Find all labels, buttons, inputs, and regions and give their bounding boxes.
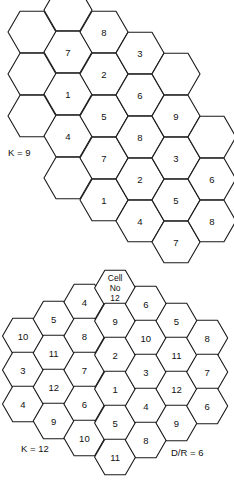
cell-number: 3 (173, 153, 178, 164)
cell-number: 8 (209, 216, 214, 227)
cell-number: 6 (82, 399, 87, 410)
cell-number: 9 (173, 111, 178, 122)
cell-number: 5 (174, 316, 179, 327)
cell-number: 8 (101, 27, 106, 38)
cell-number: 7 (173, 237, 178, 248)
cell-number: No (110, 283, 121, 293)
cell-number: 10 (18, 331, 29, 342)
cell-number: 1 (101, 195, 106, 206)
cell-number: 6 (137, 90, 142, 101)
k9-cluster-pattern: 7148257136824935768 (8, 0, 234, 263)
cell-number: 5 (101, 111, 106, 122)
cell-number: 9 (51, 416, 56, 427)
cell-number: 4 (20, 399, 25, 410)
cell-number: 7 (101, 153, 106, 164)
cell-number: 6 (209, 174, 214, 185)
cell-number: 8 (82, 331, 87, 342)
cell-number: 4 (82, 297, 87, 308)
cell-number: 9 (112, 316, 117, 327)
reuse-ratio-label: D/R = 6 (171, 447, 203, 458)
cell-number: 8 (137, 132, 142, 143)
cell-number: 4 (143, 401, 148, 412)
cell-number: 4 (137, 216, 142, 227)
cell-number: 3 (137, 48, 142, 59)
cell-number: 12 (110, 293, 120, 303)
cell-number: 8 (205, 333, 210, 344)
cell-number: 11 (49, 348, 59, 359)
cell-number: 2 (101, 69, 106, 80)
cell-number: 7 (205, 367, 210, 378)
cell-number: 1 (65, 89, 70, 100)
k12-label: K = 12 (21, 443, 49, 454)
cell-number: 12 (171, 384, 182, 395)
cell-number: 7 (82, 365, 87, 376)
cell-number: 11 (110, 452, 120, 463)
cell-number: 5 (173, 195, 178, 206)
cell-number: 6 (143, 299, 148, 310)
cell-number: Cell (108, 273, 123, 283)
cell-number: 4 (65, 131, 70, 142)
cell-number: 2 (137, 174, 142, 185)
cell-number: 2 (112, 350, 117, 361)
cell-number: 12 (48, 382, 59, 393)
cell-number: 10 (141, 333, 152, 344)
cell-number: 6 (205, 401, 210, 412)
cell-number: 3 (20, 365, 25, 376)
cell-number: 11 (172, 350, 182, 361)
cell-number: 5 (51, 314, 56, 325)
cell-number: 7 (65, 47, 70, 58)
hex-cell-reuse-diagram: 7148257136824935768 1034511129487610Cell… (0, 0, 234, 480)
cell-number: 1 (112, 384, 117, 395)
cell-number: 9 (174, 418, 179, 429)
cell-number: 8 (143, 435, 148, 446)
cell-number: 10 (79, 433, 90, 444)
k9-label: K = 9 (8, 147, 30, 158)
cell-number: 3 (143, 367, 148, 378)
cell-number: 5 (112, 418, 117, 429)
